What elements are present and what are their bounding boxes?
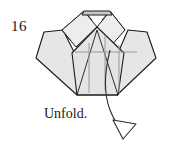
unfold-arrow-head xyxy=(113,120,136,139)
origami-figure xyxy=(0,0,191,144)
step-number: 16 xyxy=(11,19,27,34)
top-edge-band xyxy=(82,11,112,15)
origami-diagram-page: 16 Unfold. xyxy=(0,0,191,144)
step-caption: Unfold. xyxy=(44,107,87,121)
